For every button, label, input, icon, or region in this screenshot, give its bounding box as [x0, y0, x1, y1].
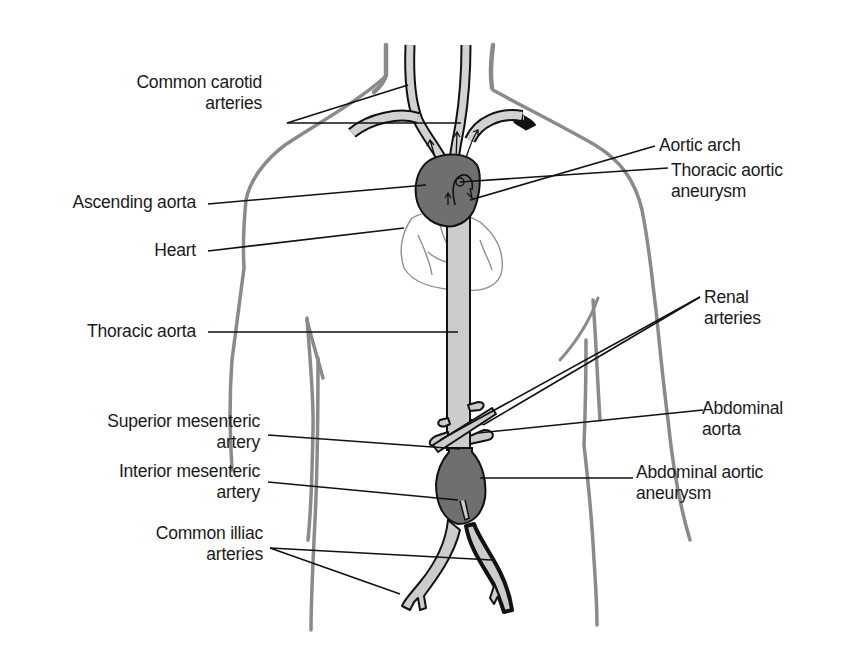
label-line: Renal — [704, 287, 761, 308]
label-line: Ascending aorta — [73, 192, 196, 213]
label-thoracic-aorta: Thoracic aorta — [87, 321, 196, 342]
abdominal-aneurysm-drawing — [436, 448, 485, 524]
label-renal-arteries: Renal arteries — [704, 287, 761, 329]
label-line: Abdominal aortic — [636, 462, 763, 483]
aorta-diagram: Common carotid arteries Ascending aorta … — [0, 0, 846, 659]
label-line: arteries — [156, 544, 263, 565]
label-heart: Heart — [154, 240, 196, 261]
label-line: Thoracic aortic — [671, 160, 783, 181]
label-line: artery — [107, 432, 260, 453]
label-common-carotid-arteries: Common carotid arteries — [136, 72, 262, 114]
label-line: Common carotid — [136, 72, 262, 93]
label-line: aneurysm — [636, 483, 763, 504]
label-thoracic-aortic-aneurysm: Thoracic aortic aneurysm — [671, 160, 783, 202]
label-line: Aortic arch — [659, 135, 740, 156]
label-line: artery — [119, 482, 260, 503]
label-line: aorta — [702, 419, 783, 440]
label-abdominal-aortic-aneurysm: Abdominal aortic aneurysm — [636, 462, 763, 504]
label-line: arteries — [136, 93, 262, 114]
label-line: Abdominal — [702, 398, 783, 419]
label-abdominal-aorta: Abdominal aorta — [702, 398, 783, 440]
label-line: aneurysm — [671, 181, 783, 202]
iliac-arteries-drawing — [402, 520, 512, 612]
label-line: Thoracic aorta — [87, 321, 196, 342]
label-ascending-aorta: Ascending aorta — [73, 192, 196, 213]
label-interior-mesenteric-artery: Interior mesenteric artery — [119, 461, 260, 503]
label-common-illiac-arteries: Common illiac arteries — [156, 523, 263, 565]
label-aortic-arch: Aortic arch — [659, 135, 740, 156]
label-line: Common illiac — [156, 523, 263, 544]
thoracic-aneurysm-drawing — [416, 155, 480, 227]
label-superior-mesenteric-artery: Superior mesenteric artery — [107, 411, 260, 453]
label-line: Heart — [154, 240, 196, 261]
label-line: Superior mesenteric — [107, 411, 260, 432]
label-line: arteries — [704, 308, 761, 329]
carotid-arteries — [352, 45, 531, 165]
label-line: Interior mesenteric — [119, 461, 260, 482]
